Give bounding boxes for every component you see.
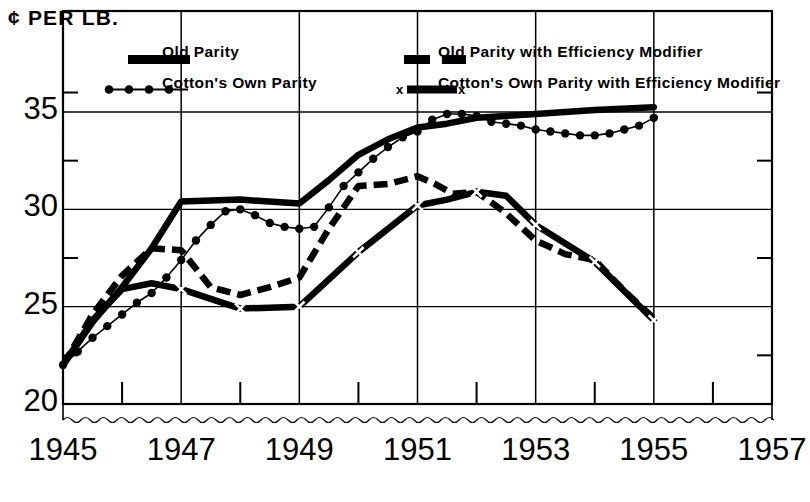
series-point-2 [88, 334, 96, 342]
series-point-2 [576, 131, 584, 139]
series-point-2 [207, 221, 215, 229]
series-point-2 [266, 219, 274, 227]
legend-label-old-parity-em: Old Parity with Efficiency Modifier [438, 43, 703, 61]
x-tick-label-1955: 1955 [594, 432, 714, 468]
series-point-2 [133, 299, 141, 307]
series-line-0 [63, 107, 654, 365]
series-point-2 [502, 119, 510, 127]
series-point-2 [177, 256, 185, 264]
series-point-2 [472, 112, 480, 120]
series-point-2 [458, 110, 466, 118]
legend-label-cotton-own: Cotton's Own Parity [162, 74, 317, 92]
series-point-2 [399, 133, 407, 141]
svg-text:x: x [396, 82, 404, 96]
y-tick-label-35: 35 [0, 91, 58, 127]
series-point-2 [620, 125, 628, 133]
x-tick-label-1951: 1951 [358, 432, 478, 468]
series-point-2 [635, 121, 643, 129]
series-point-2 [428, 116, 436, 124]
series-point-2 [546, 127, 554, 135]
axis-break-squiggle [63, 418, 774, 423]
series-point-2 [413, 127, 421, 135]
x-tick-label-1949: 1949 [239, 432, 359, 468]
series-point-2 [162, 273, 170, 281]
series-point-2 [147, 289, 155, 297]
series-point-2 [251, 211, 259, 219]
series-point-2 [517, 121, 525, 129]
legend-label-cotton-own-em: Cotton's Own Parity with Efficiency Modi… [438, 74, 781, 92]
series-point-2 [221, 207, 229, 215]
series-point-2 [591, 131, 599, 139]
series-point-2 [531, 125, 539, 133]
series-point-2 [487, 118, 495, 126]
series-point-2 [295, 225, 303, 233]
series-point-2 [384, 143, 392, 151]
series-point-2 [280, 223, 288, 231]
series-point-2 [354, 168, 362, 176]
series-point-2 [310, 223, 318, 231]
y-tick-label-25: 25 [0, 286, 58, 322]
series-point-2 [325, 203, 333, 211]
series-point-2 [118, 310, 126, 318]
x-tick-label-1945: 1945 [3, 432, 123, 468]
x-tick-label-1947: 1947 [121, 432, 241, 468]
series-point-2 [605, 129, 613, 137]
series-line-3 [63, 192, 654, 365]
y-tick-label-20: 20 [0, 383, 58, 419]
x-tick-label-1957: 1957 [712, 432, 810, 468]
series-point-2 [443, 110, 451, 118]
series-point-2 [236, 205, 244, 213]
series-point-2 [103, 322, 111, 330]
series-line-1 [63, 176, 654, 365]
series-point-2 [369, 155, 377, 163]
series-point-2 [561, 129, 569, 137]
y-tick-label-30: 30 [0, 188, 58, 224]
series-point-2 [192, 236, 200, 244]
legend-label-old-parity: Old Parity [162, 43, 239, 61]
series-point-2 [650, 114, 658, 122]
x-tick-label-1953: 1953 [476, 432, 596, 468]
series-point-2 [339, 182, 347, 190]
